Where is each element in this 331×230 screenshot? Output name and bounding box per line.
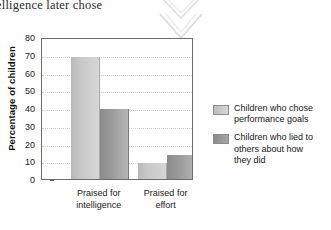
y-tick-label: 70 [13,51,35,60]
legend-label: Children who choseperformance goals [234,103,313,125]
x-tick-label-line: Praised for [61,188,137,200]
legend-label-line: Children who lied to [234,132,313,143]
gridline [42,75,192,76]
y-tick-label: 60 [13,69,35,78]
y-tick-label: 30 [13,122,35,131]
running-body-text: elligence later chose [0,0,102,13]
x-tick-label: Praised foreffort [128,188,204,211]
legend-label: Children who lied toothers about howthey… [234,132,313,166]
bar [71,57,100,179]
plot-area [41,38,193,180]
legend-label-line: they did [234,155,313,166]
y-tick-label: 10 [13,158,35,167]
legend-swatch-icon [213,134,229,144]
y-axis-tick-labels: 01020304050607080 [13,38,35,180]
gridline [42,57,192,58]
bar [167,155,193,179]
bar-chart: Percentage of children 01020304050607080… [0,38,210,230]
chart-legend: Children who choseperformance goalsChild… [213,103,331,173]
y-tick-mark [50,180,54,181]
legend-label-line: others about how [234,144,313,155]
y-tick-label: 20 [13,140,35,149]
y-tick-label: 0 [13,176,35,185]
y-tick-label: 40 [13,105,35,114]
legend-label-line: performance goals [234,114,313,125]
legend-swatch-icon [213,105,229,115]
legend-entry[interactable]: Children who choseperformance goals [213,103,331,125]
x-axis-tick-labels: Praised forintelligencePraised foreffort [41,184,193,218]
bar [138,163,167,179]
legend-label-line: Children who chose [234,103,313,114]
x-tick-label-line: Praised for [128,188,204,200]
x-tick-label-line: intelligence [61,200,137,212]
legend-entry[interactable]: Children who lied toothers about howthey… [213,132,331,166]
y-tick-label: 50 [13,87,35,96]
x-tick-label-line: effort [128,200,204,212]
bar [100,109,129,179]
gridline [42,92,192,93]
x-tick-label: Praised forintelligence [61,188,137,211]
y-tick-label: 80 [13,34,35,43]
double-chevron-down-icon [152,0,210,42]
